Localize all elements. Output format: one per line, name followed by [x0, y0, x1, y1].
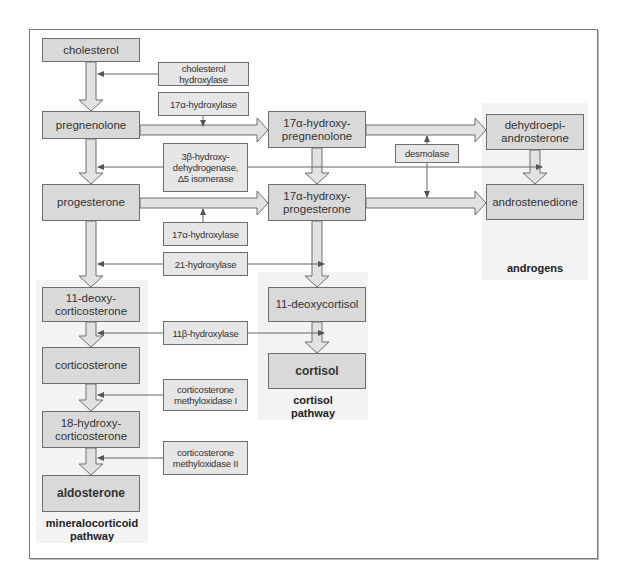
node-progesterone: progesterone: [42, 184, 140, 221]
enzyme-cholesterol-hydroxylase: cholesterol hydroxylase: [158, 62, 249, 86]
node-18-hydroxycorticosterone: 18-hydroxy- corticosterone: [42, 411, 140, 448]
block-arrow-pregnenolone-17ohpreg: [140, 118, 268, 142]
node-cholesterol: cholesterol: [42, 38, 140, 62]
label-androgens: androgens: [482, 262, 588, 275]
enzyme-21-hydroxylase: 21-hydroxylase: [163, 252, 248, 276]
enzyme-11b-hydroxylase: 11β-hydroxylase: [163, 321, 248, 345]
block-arrow-corticosterone-18oh: [79, 384, 103, 411]
node-corticosterone: corticosterone: [42, 347, 140, 384]
node-androstenedione: androstenedione: [486, 184, 584, 220]
enzyme-3b-hydroxydehydrogenase: 3β-hydroxy- dehydrogenase, Δ5 isomerase: [163, 143, 248, 192]
block-arrow-17ohpreg-17ohprog: [305, 148, 329, 184]
node-cortisol: cortisol: [268, 353, 366, 389]
label-cortisol-pathway: cortisol pathway: [258, 394, 368, 420]
block-arrow-17ohprog-androstenedione: [366, 191, 486, 215]
node-17a-hydroxyprogesterone: 17α-hydroxy- progesterone: [268, 184, 366, 221]
enzyme-corticosterone-methyloxidase-1: corticosterone methyloxidase I: [163, 379, 248, 411]
label-mineralocorticoid-pathway: mineralocorticoid pathway: [36, 517, 148, 543]
block-arrow-17ohprog-deoxycortisol: [305, 221, 329, 287]
block-arrow-17ohpreg-dhea: [366, 118, 486, 142]
block-arrow-pregnenolone-progesterone: [79, 139, 103, 184]
enzyme-17a-hydroxylase-top: 17α-hydroxylase: [158, 92, 249, 116]
block-arrow-deoxycortisol-cortisol: [305, 322, 329, 353]
node-dehydroepiandrosterone: dehydroepi- androsterone: [486, 114, 584, 150]
node-pregnenolone: pregnenolone: [42, 111, 140, 139]
node-11-deoxycortisol: 11-deoxycortisol: [268, 287, 366, 322]
node-11-deoxycorticosterone: 11-deoxy- corticosterone: [42, 287, 140, 322]
enzyme-corticosterone-methyloxidase-2: corticosterone methyloxidase II: [163, 441, 248, 475]
block-arrow-doc-corticosterone: [79, 322, 103, 347]
enzyme-desmolase: desmolase: [395, 144, 459, 163]
block-arrow-cholesterol-pregnenolone: [79, 62, 103, 111]
block-arrow-progesterone-17ohprog: [140, 191, 268, 215]
enzyme-17a-hydroxylase-bottom: 17α-hydroxylase: [163, 222, 248, 246]
node-17a-hydroxypregnenolone: 17α-hydroxy- pregnenolone: [268, 111, 366, 148]
block-arrow-18oh-aldosterone: [79, 448, 103, 475]
block-arrow-progesterone-doc: [79, 221, 103, 287]
node-aldosterone: aldosterone: [42, 475, 140, 512]
